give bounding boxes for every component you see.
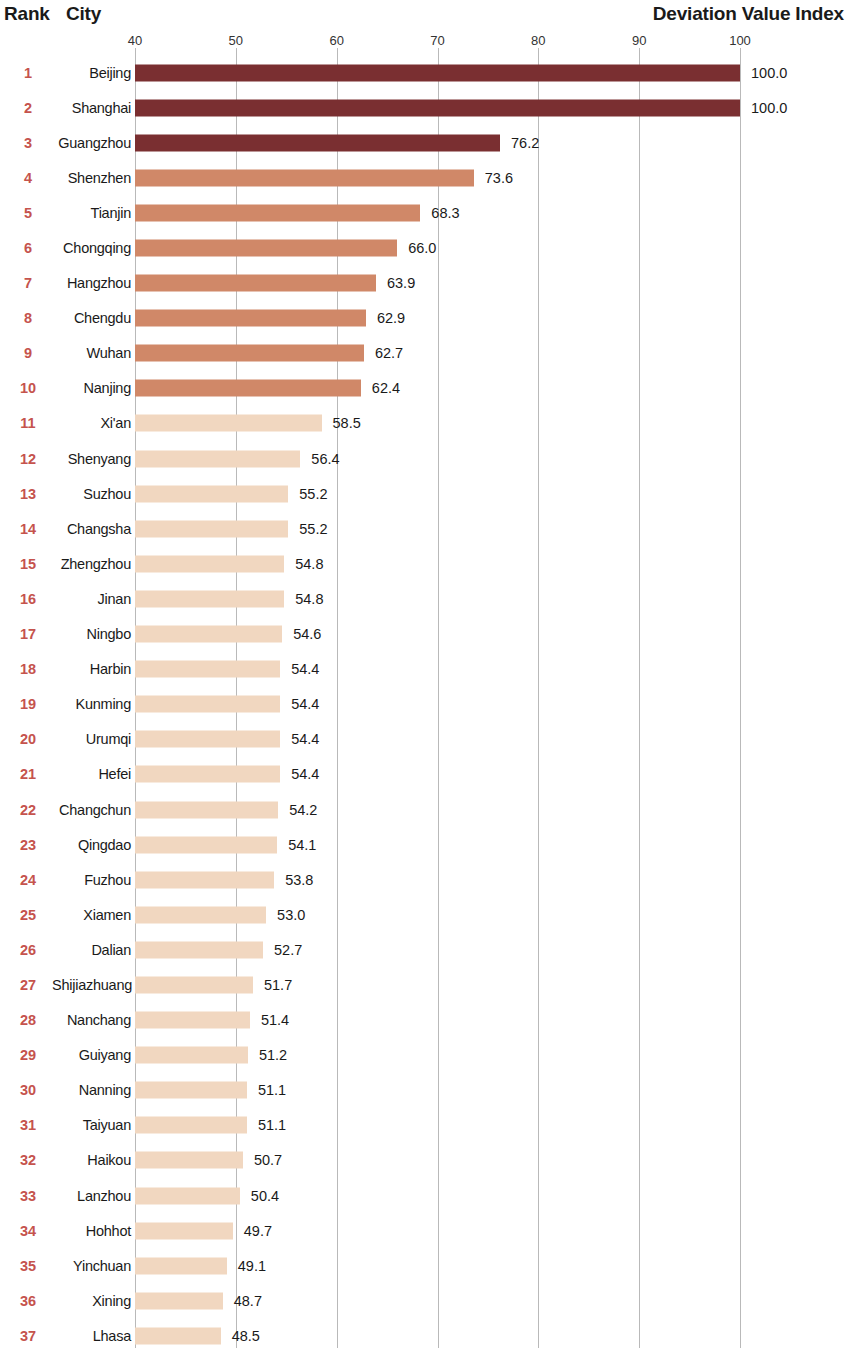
value-label: 100.0 <box>751 65 787 81</box>
rank-number: 30 <box>4 1082 52 1098</box>
bar-row: 19Kunming54.4 <box>0 687 848 722</box>
value-bar <box>135 345 364 362</box>
rank-number: 35 <box>4 1258 52 1274</box>
bar-row: 3Guangzhou76.2 <box>0 125 848 160</box>
city-label: Dalian <box>52 942 131 958</box>
value-label: 54.8 <box>295 591 323 607</box>
rank-number: 34 <box>4 1223 52 1239</box>
city-label: Xiamen <box>52 907 131 923</box>
axis-tick-label-70: 70 <box>430 33 444 48</box>
bar-row: 22Changchun54.2 <box>0 792 848 827</box>
value-bar <box>135 696 280 713</box>
rank-number: 23 <box>4 837 52 853</box>
header-city-label: City <box>66 3 101 25</box>
value-label: 50.4 <box>251 1188 279 1204</box>
value-label: 51.7 <box>264 977 292 993</box>
city-label: Ningbo <box>52 626 131 642</box>
rank-number: 25 <box>4 907 52 923</box>
chart-header: Rank City Deviation Value Index <box>0 0 848 30</box>
city-label: Chongqing <box>52 240 131 256</box>
bar-row: 17Ningbo54.6 <box>0 617 848 652</box>
value-label: 52.7 <box>274 942 302 958</box>
bar-rows-container: 1Beijing100.02Shanghai100.03Guangzhou76.… <box>0 55 848 1351</box>
city-label: Hefei <box>52 766 131 782</box>
value-bar <box>135 380 361 397</box>
bar-row: 25Xiamen53.0 <box>0 897 848 932</box>
rank-number: 3 <box>4 135 52 151</box>
value-bar <box>135 485 288 502</box>
value-bar <box>135 204 420 221</box>
value-label: 51.1 <box>258 1117 286 1133</box>
city-label: Taiyuan <box>52 1117 131 1133</box>
rank-number: 14 <box>4 521 52 537</box>
header-rank-label: Rank <box>4 3 60 25</box>
value-label: 54.4 <box>291 661 319 677</box>
bar-row: 16Jinan54.8 <box>0 581 848 616</box>
value-label: 58.5 <box>333 415 361 431</box>
value-label: 63.9 <box>387 275 415 291</box>
value-bar <box>135 836 277 853</box>
city-label: Urumqi <box>52 731 131 747</box>
rank-number: 11 <box>4 415 52 431</box>
value-bar <box>135 310 366 327</box>
rank-number: 13 <box>4 486 52 502</box>
value-bar <box>135 240 397 257</box>
rank-number: 32 <box>4 1152 52 1168</box>
city-label: Xining <box>52 1293 131 1309</box>
value-label: 54.4 <box>291 696 319 712</box>
value-bar <box>135 1152 243 1169</box>
bar-row: 37Lhasa48.5 <box>0 1318 848 1351</box>
city-label: Hangzhou <box>52 275 131 291</box>
value-label: 55.2 <box>299 521 327 537</box>
value-bar <box>135 661 280 678</box>
value-label: 62.9 <box>377 310 405 326</box>
value-label: 51.2 <box>259 1047 287 1063</box>
value-label: 54.8 <box>295 556 323 572</box>
value-bar <box>135 169 474 186</box>
bar-row: 33Lanzhou50.4 <box>0 1178 848 1213</box>
bar-row: 5Tianjin68.3 <box>0 195 848 230</box>
value-bar <box>135 1082 247 1099</box>
value-bar <box>135 976 253 993</box>
value-bar <box>135 906 266 923</box>
rank-number: 18 <box>4 661 52 677</box>
bar-row: 28Nanchang51.4 <box>0 1003 848 1038</box>
city-label: Nanchang <box>52 1012 131 1028</box>
city-label: Beijing <box>52 65 131 81</box>
bar-row: 35Yinchuan49.1 <box>0 1248 848 1283</box>
rank-number: 26 <box>4 942 52 958</box>
value-label: 49.7 <box>244 1223 272 1239</box>
city-label: Hohhot <box>52 1223 131 1239</box>
bar-row: 7Hangzhou63.9 <box>0 266 848 301</box>
rank-number: 1 <box>4 65 52 81</box>
bar-row: 20Urumqi54.4 <box>0 722 848 757</box>
bar-row: 24Fuzhou53.8 <box>0 862 848 897</box>
value-label: 54.6 <box>293 626 321 642</box>
value-bar <box>135 99 740 116</box>
value-label: 53.8 <box>285 872 313 888</box>
rank-number: 21 <box>4 766 52 782</box>
axis-tick-label-60: 60 <box>329 33 343 48</box>
bar-row: 13Suzhou55.2 <box>0 476 848 511</box>
rank-number: 4 <box>4 170 52 186</box>
value-label: 51.1 <box>258 1082 286 1098</box>
city-label: Lanzhou <box>52 1188 131 1204</box>
city-label: Guangzhou <box>52 135 131 151</box>
bar-row: 1Beijing100.0 <box>0 55 848 90</box>
city-label: Chengdu <box>52 310 131 326</box>
value-label: 54.2 <box>289 802 317 818</box>
bar-row: 30Nanning51.1 <box>0 1073 848 1108</box>
bar-row: 32Haikou50.7 <box>0 1143 848 1178</box>
bar-row: 12Shenyang56.4 <box>0 441 848 476</box>
value-label: 54.4 <box>291 766 319 782</box>
bar-row: 21Hefei54.4 <box>0 757 848 792</box>
rank-number: 5 <box>4 205 52 221</box>
value-bar <box>135 1257 227 1274</box>
city-label: Nanjing <box>52 380 131 396</box>
value-bar <box>135 415 322 432</box>
bar-row: 34Hohhot49.7 <box>0 1213 848 1248</box>
city-label: Shanghai <box>52 100 131 116</box>
city-label: Guiyang <box>52 1047 131 1063</box>
city-label: Nanning <box>52 1082 131 1098</box>
value-label: 48.7 <box>234 1293 262 1309</box>
